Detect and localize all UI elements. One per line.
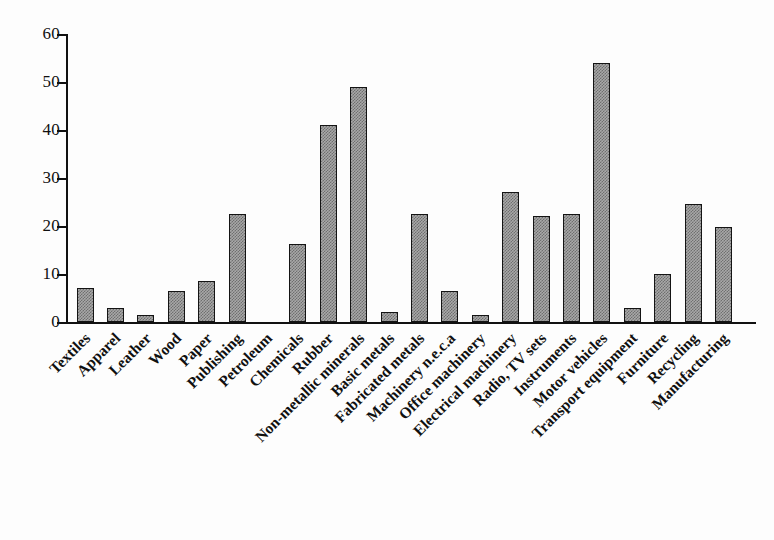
bar-chart: 0102030405060 TextilesApparelLeatherWood… bbox=[0, 0, 774, 540]
bar-slot bbox=[252, 34, 282, 322]
bar-slot bbox=[708, 34, 738, 322]
bar-slot bbox=[192, 34, 222, 322]
y-tick-label: 50 bbox=[42, 73, 60, 90]
bar-slot bbox=[313, 34, 343, 322]
bar-slot bbox=[374, 34, 404, 322]
y-tick-label: 40 bbox=[42, 121, 60, 138]
y-tick-label: 0 bbox=[51, 313, 60, 330]
bar-slot bbox=[131, 34, 161, 322]
bar-slot bbox=[161, 34, 191, 322]
bar-slot bbox=[100, 34, 130, 322]
x-axis-category-labels: TextilesApparelLeatherWoodPaperPublishin… bbox=[66, 326, 760, 536]
bar bbox=[350, 87, 367, 322]
bar-slot bbox=[344, 34, 374, 322]
y-tick-label: 60 bbox=[42, 25, 60, 42]
y-tick-label: 30 bbox=[42, 169, 60, 186]
bar-slot bbox=[222, 34, 252, 322]
bar-slot bbox=[70, 34, 100, 322]
y-tick-label: 10 bbox=[42, 265, 60, 282]
bar-slot bbox=[283, 34, 313, 322]
bar bbox=[77, 288, 94, 322]
y-tick-label: 20 bbox=[42, 217, 60, 234]
